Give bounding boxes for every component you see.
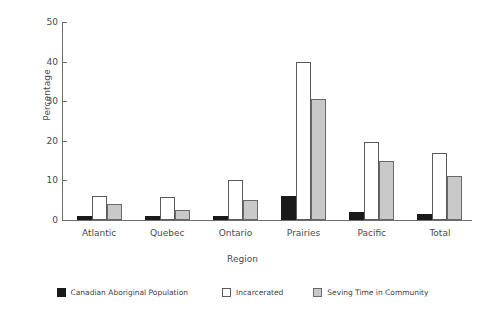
legend-item: Seving Time in Community [313,288,428,297]
bar [364,142,379,220]
legend-label: Incarcerated [236,288,283,297]
bar-group [281,22,326,220]
y-tick-mark [62,220,67,221]
bar [349,212,364,220]
legend-item: Incarcerated [222,288,283,297]
legend-swatch-icon [313,288,322,297]
bar-group [417,22,462,220]
bar [379,161,394,220]
legend-label: Canadian Aboriginal Population [71,288,188,297]
y-tick-label: 20 [32,136,58,146]
y-tick-label: 40 [32,57,58,67]
bar [311,99,326,220]
bar [213,216,228,220]
x-tick-label: Total [400,228,480,238]
bar [243,200,258,220]
bar [296,62,311,220]
y-tick-label: 10 [32,175,58,185]
legend-swatch-icon [57,288,66,297]
bar [417,214,432,220]
bar-chart: Percentage 01020304050 AtlanticQuebecOnt… [0,0,485,322]
bar [92,196,107,220]
bar [145,216,160,220]
legend-item: Canadian Aboriginal Population [57,288,188,297]
bar [160,197,175,220]
y-tick-label: 30 [32,96,58,106]
bar [175,210,190,220]
bar [432,153,447,220]
legend-label: Seving Time in Community [327,288,428,297]
bar [228,180,243,220]
legend-swatch-icon [222,288,231,297]
bar [107,204,122,220]
x-axis-line [62,220,472,221]
bar-group [349,22,394,220]
y-tick-label: 0 [32,215,58,225]
x-axis-title: Region [0,254,485,264]
y-tick-label: 50 [32,17,58,27]
bar-group [77,22,122,220]
bar-group [213,22,258,220]
chart-legend: Canadian Aboriginal PopulationIncarcerat… [0,288,485,297]
bar [77,216,92,220]
bar [281,196,296,220]
bar-group [145,22,190,220]
plot-area [63,22,472,220]
bar [447,176,462,220]
